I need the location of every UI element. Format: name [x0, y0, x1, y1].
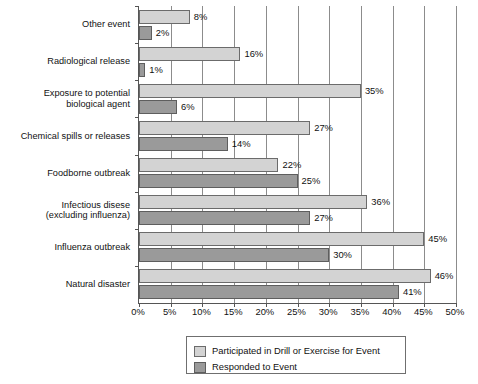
bar-participated	[139, 47, 240, 61]
gridline	[424, 6, 425, 303]
gridline	[393, 6, 394, 303]
x-axis-tick-label: 10%	[192, 306, 211, 317]
plot-area: 8%2%16%1%35%6%27%14%22%25%36%27%45%30%46…	[138, 6, 456, 304]
y-axis-tick	[135, 155, 139, 156]
bar-participated	[139, 84, 361, 98]
category-label: Chemical spills or releases	[0, 131, 130, 142]
bar-value-label: 35%	[365, 84, 384, 98]
bar-value-label: 27%	[314, 121, 333, 135]
y-axis-tick	[135, 80, 139, 81]
bar-value-label: 45%	[428, 232, 447, 246]
chart-legend: Participated in Drill or Exercise for Ev…	[186, 336, 406, 374]
bar-responded	[139, 63, 145, 77]
bar-value-label: 27%	[314, 211, 333, 225]
bar-responded	[139, 211, 310, 225]
x-axis-tick-label: 40%	[382, 306, 401, 317]
bar-responded	[139, 26, 152, 40]
y-axis-tick	[135, 117, 139, 118]
bar-value-label: 46%	[435, 269, 454, 283]
y-axis-tick	[135, 229, 139, 230]
x-axis-tick-label: 5%	[163, 306, 177, 317]
bar-value-label: 1%	[149, 63, 163, 77]
x-axis-tick-label: 20%	[255, 306, 274, 317]
category-label: Influenza outbreak	[0, 242, 130, 253]
bar-responded	[139, 174, 298, 188]
x-axis-tick-label: 30%	[319, 306, 338, 317]
y-axis-tick	[135, 6, 139, 7]
category-label: Exposure to potential biological agent	[0, 88, 130, 109]
x-axis-tick-label: 50%	[446, 306, 465, 317]
x-axis-tick-label: 45%	[414, 306, 433, 317]
legend-swatch	[194, 346, 206, 357]
bar-responded	[139, 285, 399, 299]
category-label: Other event	[0, 19, 130, 30]
bar-value-label: 25%	[302, 174, 321, 188]
legend-item: Participated in Drill or Exercise for Ev…	[194, 344, 380, 358]
bar-value-label: 16%	[244, 47, 263, 61]
x-axis-tick-label: 35%	[351, 306, 370, 317]
bar-participated	[139, 232, 424, 246]
gridline	[456, 6, 457, 303]
bar-value-label: 41%	[403, 285, 422, 299]
category-label: Natural disaster	[0, 279, 130, 290]
bar-participated	[139, 10, 190, 24]
bar-value-label: 6%	[181, 100, 195, 114]
legend-swatch	[194, 362, 206, 373]
gridline	[329, 6, 330, 303]
bar-participated	[139, 121, 310, 135]
bar-responded	[139, 100, 177, 114]
bar-responded	[139, 137, 228, 151]
x-axis-tick-label: 0%	[131, 306, 145, 317]
x-axis-labels: 0%5%10%15%20%25%30%35%40%45%50%	[138, 306, 458, 322]
bar-participated	[139, 195, 367, 209]
bar-participated	[139, 158, 278, 172]
category-label: Infectious disese (excluding influenza)	[0, 200, 130, 221]
y-axis-tick	[135, 266, 139, 267]
category-label: Radiological release	[0, 56, 130, 67]
y-axis-tick	[135, 192, 139, 193]
x-axis-tick-label: 25%	[287, 306, 306, 317]
bar-value-label: 14%	[232, 137, 251, 151]
category-axis: Other eventRadiological releaseExposure …	[0, 6, 134, 303]
x-axis-tick-label: 15%	[224, 306, 243, 317]
bar-responded	[139, 248, 329, 262]
bar-chart: Other eventRadiological releaseExposure …	[0, 0, 478, 384]
legend-label: Participated in Drill or Exercise for Ev…	[212, 345, 380, 357]
bar-value-label: 30%	[333, 248, 352, 262]
bar-value-label: 2%	[156, 26, 170, 40]
gridline	[361, 6, 362, 303]
legend-label: Responded to Event	[212, 361, 297, 373]
legend-item: Responded to Event	[194, 360, 297, 374]
bar-participated	[139, 269, 431, 283]
bar-value-label: 8%	[194, 10, 208, 24]
y-axis-tick	[135, 43, 139, 44]
bar-value-label: 36%	[371, 195, 390, 209]
bar-value-label: 22%	[282, 158, 301, 172]
category-label: Foodborne outbreak	[0, 168, 130, 179]
